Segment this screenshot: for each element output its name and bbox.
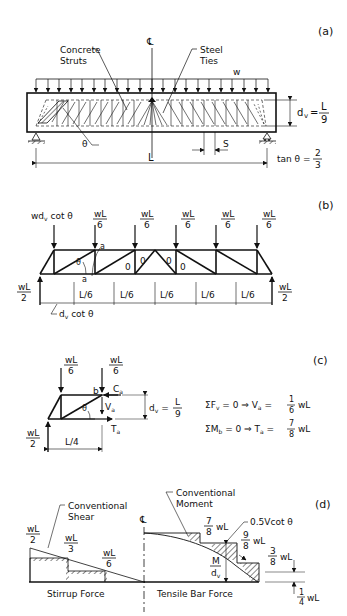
c-reaction-den: 2 <box>30 439 36 449</box>
theta-label: θ <box>82 139 88 149</box>
stirrup-force-label: Stirrup Force <box>47 589 105 599</box>
struts-and-ties <box>36 100 266 126</box>
svg-text:wL: wL <box>94 209 106 219</box>
m-dv-num: M <box>212 556 220 566</box>
panel-b: (b) wdv cot θ wL 6 wL 6 wL 6 wL 6 wL 6 <box>17 199 334 320</box>
equation-sum-mb: ΣMb = 0 ⇒ Ta = <box>205 424 274 435</box>
c-dv-num: L <box>175 397 180 407</box>
dim-l6-5: L/6 <box>241 290 255 300</box>
end-dimension-label: dv cot θ <box>59 309 94 320</box>
svg-text:6: 6 <box>225 220 231 230</box>
svg-text:wL: wL <box>141 209 153 219</box>
c-reaction-num: wL <box>27 428 39 438</box>
m14-den: 4 <box>299 598 304 607</box>
zero-force-label-1: 0 <box>125 262 131 272</box>
panel-d: (d) Conventional Shear wL 2 wL 3 wL 6 St… <box>26 488 331 612</box>
m98-wl: wL <box>253 536 265 546</box>
equation-sum-fv: ΣFv = 0 ⇒ Va = <box>205 400 272 411</box>
span-label: L <box>148 152 154 163</box>
svg-text:6: 6 <box>266 220 272 230</box>
eq1-den: 6 <box>289 406 294 415</box>
dim-l6-2: L/6 <box>120 290 134 300</box>
c-load1-num: wL <box>65 355 77 365</box>
truss-theta: θ <box>76 258 81 267</box>
tan-num: 2 <box>315 148 321 158</box>
zero-force-label-4: 0 <box>180 262 186 272</box>
conventional-moment-label-2: Moment <box>176 499 213 509</box>
steel-ties-label: Steel <box>200 45 223 55</box>
svg-text:wL: wL <box>222 209 234 219</box>
va-label: Va <box>105 402 115 413</box>
ca-label: Ca <box>113 384 123 395</box>
shear-wl3-den: 3 <box>68 544 74 554</box>
strut-band-highlight <box>38 101 68 123</box>
tan-theta-label: tan θ = <box>277 154 311 164</box>
right-reaction-den: 2 <box>282 293 288 303</box>
eq1-num: 1 <box>289 395 294 404</box>
m38-num: 3 <box>270 546 276 556</box>
ta-label: Ta <box>110 424 121 435</box>
panel-b-label: (b) <box>318 199 334 212</box>
dim-l6-4: L/6 <box>201 290 215 300</box>
left-reaction-den: 2 <box>21 293 27 303</box>
svg-text:6: 6 <box>144 220 150 230</box>
panel-c-label: (c) <box>313 354 328 367</box>
center-node <box>148 97 156 102</box>
m38-den: 8 <box>270 557 276 567</box>
right-reaction-num: wL <box>279 282 291 292</box>
m14-wl: wL <box>307 593 319 603</box>
dim-l6-1: L/6 <box>79 290 93 300</box>
first-load-label: wdv cot θ <box>31 211 73 222</box>
svg-text:6: 6 <box>97 220 103 230</box>
panel-c: (c) wL 6 wL 6 θ b Ca Va Ta dv = L <box>26 354 328 452</box>
conventional-shear-label-2: Shear <box>68 512 94 522</box>
panel-a: (a) ℄ Concrete Struts Steel Ties w <box>27 25 333 170</box>
dv-den: 9 <box>321 114 327 125</box>
section-a-bottom: a <box>82 275 87 284</box>
shear-wl2-den: 2 <box>30 535 36 545</box>
eq1-tail: wL <box>298 400 310 410</box>
section-a-top: a <box>100 242 105 251</box>
svg-text:6: 6 <box>185 220 191 230</box>
c-length-label: L/4 <box>65 437 79 447</box>
c-load2-den: 6 <box>113 366 119 376</box>
m98-num: 9 <box>243 530 249 540</box>
eq2-num: 7 <box>289 419 294 428</box>
tensile-bar-force-label: Tensile Bar Force <box>156 589 233 599</box>
centerline-symbol: ℄ <box>146 36 154 47</box>
c-load1-den: 6 <box>68 366 74 376</box>
node-loads: wL 6 wL 6 wL 6 wL 6 wL 6 <box>93 209 276 230</box>
right-support <box>259 133 276 144</box>
m78-num: 7 <box>206 516 212 526</box>
d-centerline-symbol: ℄ <box>139 514 147 525</box>
m78-den: 8 <box>206 527 212 537</box>
dv-eq: = <box>310 107 318 118</box>
conventional-moment-label: Conventional <box>176 488 235 498</box>
load-w-label: w <box>233 67 240 77</box>
free-body-truss <box>48 395 102 419</box>
concrete-struts-leader <box>92 49 127 110</box>
dv-sub: v <box>304 112 308 120</box>
panel-d-label: (d) <box>315 498 331 511</box>
m78-wl: wL <box>216 522 228 532</box>
truss <box>40 250 272 274</box>
stirrup-force-diagram <box>29 548 145 582</box>
c-dv-den: 9 <box>175 409 181 419</box>
shear-wl6-num: wL <box>103 548 115 558</box>
conventional-shear-label: Conventional <box>68 501 127 511</box>
conventional-shear-line <box>30 548 144 582</box>
panel-dimensions <box>40 282 272 305</box>
shear-wl6-den: 6 <box>106 559 112 569</box>
shear-wl3-num: wL <box>65 533 77 543</box>
left-reaction-num: wL <box>18 282 30 292</box>
conventional-moment-curve <box>144 533 258 582</box>
svg-text:wL: wL <box>263 209 275 219</box>
dim-l6-3: L/6 <box>160 290 174 300</box>
concrete-struts-label-2: Struts <box>60 56 87 66</box>
panel-a-label: (a) <box>318 25 333 38</box>
m98-den: 8 <box>243 541 249 551</box>
m14-num: 1 <box>299 588 304 597</box>
distributed-load-arrows <box>36 79 268 92</box>
svg-text:wL: wL <box>182 209 194 219</box>
vcot-label: 0.5Vcot θ <box>250 517 293 527</box>
